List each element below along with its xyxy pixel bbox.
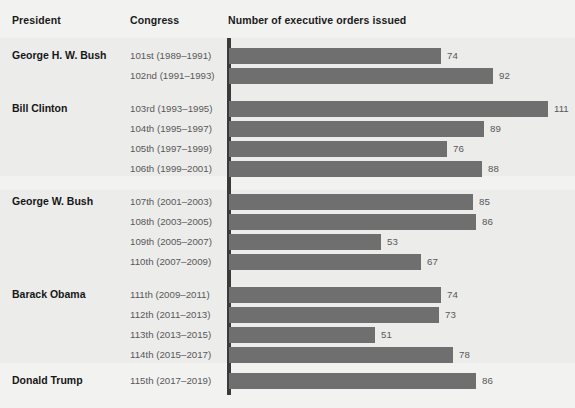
bar-value-label: 74: [447, 289, 458, 300]
bar-value-label: 86: [482, 375, 493, 386]
chart-row: 109th (2005–2007)53: [0, 232, 575, 252]
congress-label: 109th (2005–2007): [130, 236, 212, 247]
bar-value-label: 76: [453, 143, 464, 154]
bar-value-label: 53: [387, 236, 398, 247]
congress-label: 115th (2017–2019): [130, 375, 211, 386]
chart-row: 105th (1997–1999)76: [0, 139, 575, 159]
bar: [229, 101, 548, 117]
bar: [229, 254, 421, 270]
bar: [229, 161, 482, 177]
president-label: Bill Clinton: [12, 102, 67, 114]
chart-page: President Congress Number of executive o…: [0, 0, 575, 408]
bar-value-label: 73: [445, 309, 456, 320]
bar: [229, 347, 453, 363]
congress-label: 113th (2013–2015): [130, 329, 211, 340]
bar-value-label: 85: [479, 196, 490, 207]
congress-label: 103rd (1993–1995): [130, 103, 212, 114]
bar: [229, 121, 484, 137]
bar-value-label: 74: [447, 50, 458, 61]
bar: [229, 287, 441, 303]
congress-label: 105th (1997–1999): [130, 143, 212, 154]
chart-row: 106th (1999–2001)88: [0, 159, 575, 179]
congress-label: 104th (1995–1997): [130, 123, 212, 134]
congress-label: 102nd (1991–1993): [130, 70, 215, 81]
chart-row: 112th (2011–2013)73: [0, 305, 575, 325]
chart-row: Bill Clinton103rd (1993–1995)111: [0, 99, 575, 119]
chart-row: George H. W. Bush101st (1989–1991)74: [0, 46, 575, 66]
president-label: George H. W. Bush: [12, 49, 107, 61]
bar: [229, 214, 476, 230]
bar: [229, 194, 473, 210]
congress-label: 106th (1999–2001): [130, 163, 212, 174]
chart-row: George W. Bush107th (2001–2003)85: [0, 192, 575, 212]
president-label: George W. Bush: [12, 195, 93, 207]
bar: [229, 373, 476, 389]
chart-row: Barack Obama111th (2009–2011)74: [0, 285, 575, 305]
bar-value-label: 67: [427, 256, 438, 267]
chart-row: 104th (1995–1997)89: [0, 119, 575, 139]
bar-value-label: 111: [554, 103, 569, 114]
president-label: Donald Trump: [12, 374, 83, 386]
bar: [229, 141, 447, 157]
congress-label: 111th (2009–2011): [130, 289, 210, 300]
chart-row: 108th (2003–2005)86: [0, 212, 575, 232]
congress-label: 112th (2011–2013): [130, 309, 210, 320]
bar-value-label: 78: [459, 349, 470, 360]
bar-value-label: 89: [490, 123, 501, 134]
congress-label: 108th (2003–2005): [130, 216, 212, 227]
president-label: Barack Obama: [12, 288, 86, 300]
chart-row: 113th (2013–2015)51: [0, 325, 575, 345]
chart-row: 102nd (1991–1993)92: [0, 66, 575, 86]
congress-label: 110th (2007–2009): [130, 256, 211, 267]
bar-value-label: 92: [499, 70, 510, 81]
bar: [229, 48, 441, 64]
chart-row: 114th (2015–2017)78: [0, 345, 575, 365]
chart-row: 110th (2007–2009)67: [0, 252, 575, 272]
bar: [229, 307, 439, 323]
congress-label: 101st (1989–1991): [130, 50, 211, 61]
bar-value-label: 88: [488, 163, 499, 174]
congress-label: 107th (2001–2003): [130, 196, 212, 207]
bar-value-label: 51: [381, 329, 392, 340]
bar: [229, 327, 375, 343]
bar-value-label: 86: [482, 216, 493, 227]
congress-label: 114th (2015–2017): [130, 349, 211, 360]
chart-row: Donald Trump115th (2017–2019)86: [0, 371, 575, 391]
bar: [229, 68, 493, 84]
bar: [229, 234, 381, 250]
